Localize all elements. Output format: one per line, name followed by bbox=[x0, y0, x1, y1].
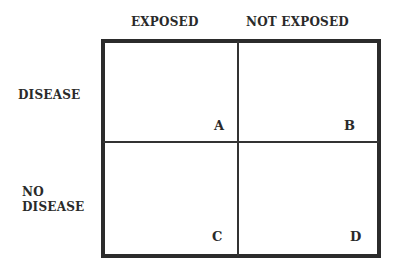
row-header-no-disease-line2: DISEASE bbox=[22, 200, 84, 214]
cell-a: A bbox=[214, 119, 224, 133]
row-divider bbox=[103, 141, 379, 143]
table-outer-border bbox=[101, 39, 381, 258]
cell-d: D bbox=[350, 230, 361, 244]
column-header-not-exposed: NOT EXPOSED bbox=[246, 15, 349, 29]
column-header-exposed: EXPOSED bbox=[131, 15, 199, 29]
row-header-no-disease-line1: NO bbox=[22, 185, 44, 199]
cell-b: B bbox=[344, 119, 355, 133]
column-divider bbox=[237, 41, 239, 256]
row-header-disease: DISEASE bbox=[18, 88, 80, 102]
cell-c: C bbox=[212, 230, 222, 244]
